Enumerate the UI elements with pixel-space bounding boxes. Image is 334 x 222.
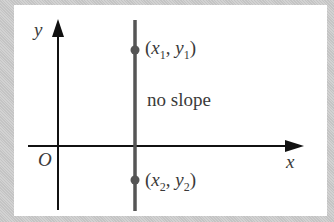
diagram-canvas: y x O (x1, y1) no slope (x2, y2) xyxy=(0,0,334,222)
y-axis-label: y xyxy=(32,19,43,40)
point-1-marker xyxy=(131,46,140,55)
point-1-label: (x1, y1) xyxy=(145,37,196,62)
x-axis-label: x xyxy=(285,151,295,172)
point-2-marker xyxy=(131,176,140,185)
y-axis xyxy=(52,19,64,210)
x-axis xyxy=(28,140,304,152)
no-slope-caption: no slope xyxy=(147,89,211,110)
origin-label: O xyxy=(38,149,52,170)
point-2-label: (x2, y2) xyxy=(145,169,196,194)
y-axis-arrow-icon xyxy=(52,19,64,37)
